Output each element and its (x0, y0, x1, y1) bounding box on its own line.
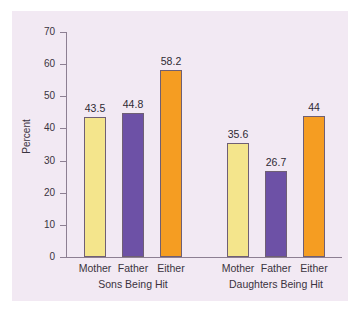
bar-daughters-being-hit-either (303, 116, 325, 257)
y-tick-label: 0 (15, 252, 55, 262)
chart-panel: Percent 706050403020100 43.544.858.235.6… (12, 11, 348, 301)
y-tick-label: 30 (15, 156, 55, 166)
y-tick-label: 50 (15, 91, 55, 101)
x-axis-line (66, 257, 342, 258)
bar-daughters-being-hit-mother (227, 143, 249, 257)
y-tick-mark (60, 96, 66, 97)
y-tick-mark (60, 32, 66, 33)
y-tick-mark (60, 64, 66, 65)
bar-sons-being-hit-mother (84, 117, 106, 257)
y-tick-label: 60 (15, 59, 55, 69)
bar-value-label: 26.7 (254, 157, 298, 168)
bar-value-label: 44.8 (111, 99, 155, 110)
y-tick-label: 70 (15, 27, 55, 37)
bar-value-label: 44 (292, 102, 336, 113)
group-label: Sons Being Hit (58, 278, 208, 290)
y-tick-mark (60, 225, 66, 226)
bar-value-label: 35.6 (216, 129, 260, 140)
bar-chart-figure: Percent 706050403020100 43.544.858.235.6… (0, 0, 359, 311)
y-tick-label: 20 (15, 188, 55, 198)
bar-daughters-being-hit-father (265, 171, 287, 257)
bar-sons-being-hit-father (122, 113, 144, 257)
y-tick-mark (60, 193, 66, 194)
y-tick-mark (60, 161, 66, 162)
y-tick-label: 40 (15, 123, 55, 133)
bar-value-label: 58.2 (149, 56, 193, 67)
y-axis-line (66, 32, 67, 257)
category-label: Either (292, 262, 336, 274)
y-tick-mark (60, 257, 66, 258)
category-label: Either (149, 262, 193, 274)
y-tick-label: 10 (15, 220, 55, 230)
group-label: Daughters Being Hit (201, 278, 351, 290)
y-tick-mark (60, 128, 66, 129)
bar-sons-being-hit-either (160, 70, 182, 257)
plot-area: Percent 706050403020100 43.544.858.235.6… (12, 11, 348, 301)
